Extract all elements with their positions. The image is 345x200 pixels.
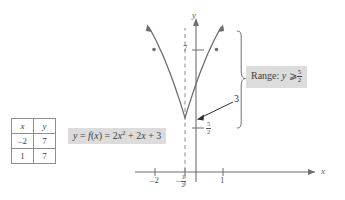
eq-y: y bbox=[73, 130, 77, 141]
table-header-x: x bbox=[12, 119, 34, 134]
x-tick-label-minus-one-half: –12 bbox=[176, 174, 186, 189]
x-tick-label-minus2: –2 bbox=[150, 175, 159, 185]
table-cell-y-1: 7 bbox=[34, 134, 56, 149]
y-tick-fraction-denominator: 2 bbox=[206, 129, 211, 136]
range-brace bbox=[237, 31, 246, 128]
table-cell-y-2: 7 bbox=[34, 149, 56, 164]
y-intercept-annotation: 3 bbox=[234, 93, 239, 104]
y-axis-label: y bbox=[192, 10, 196, 20]
parabola-graph bbox=[0, 0, 345, 200]
eq-equals-2: = bbox=[105, 130, 111, 141]
y-tick-fraction: 52 bbox=[206, 121, 211, 136]
eq-exponent: 2 bbox=[122, 129, 126, 137]
range-prefix: Range: bbox=[251, 70, 279, 81]
table-cell-x-2: 1 bbox=[12, 149, 34, 164]
point-marker-minus2-7 bbox=[152, 48, 156, 52]
range-variable: y bbox=[282, 70, 286, 81]
x-axis bbox=[135, 169, 315, 175]
eq-plus-1: + bbox=[128, 130, 134, 141]
eq-x-linear: x bbox=[141, 130, 145, 141]
eq-equals-1: = bbox=[80, 130, 86, 141]
x-tick-label-1: 1 bbox=[220, 175, 225, 185]
table-row: 1 7 bbox=[12, 149, 56, 164]
y-intercept-leader-line bbox=[197, 102, 233, 121]
value-table: x y –2 7 1 7 bbox=[11, 118, 56, 164]
y-tick-label-five-halves: 52 bbox=[206, 121, 211, 136]
range-fraction-denominator: 2 bbox=[297, 77, 303, 84]
y-tick-label-7: 7 bbox=[183, 43, 188, 53]
eq-paren-close: ) bbox=[99, 130, 102, 141]
eq-constant: 3 bbox=[156, 130, 161, 141]
figure-container: x y –2 7 1 7 y = f(x) = 2x2 + 2x + 3 Ran… bbox=[0, 0, 345, 200]
table-header-y: y bbox=[34, 119, 56, 134]
x-tick-fraction-denominator: 2 bbox=[181, 182, 186, 189]
curve-arrow-left bbox=[146, 24, 152, 32]
y-axis bbox=[193, 18, 199, 182]
eq-plus-2: + bbox=[148, 130, 154, 141]
table-header-row: x y bbox=[12, 119, 56, 134]
range-label: Range: y ⩾52 bbox=[246, 66, 307, 88]
equation-label: y = f(x) = 2x2 + 2x + 3 bbox=[68, 128, 166, 144]
table-row: –2 7 bbox=[12, 134, 56, 149]
x-tick-fraction: 12 bbox=[181, 174, 186, 189]
table-cell-x-1: –2 bbox=[12, 134, 34, 149]
range-fraction: 52 bbox=[297, 69, 303, 85]
curve-arrow-right bbox=[218, 24, 224, 32]
x-axis-label: x bbox=[321, 166, 325, 176]
range-relation-symbol: ⩾ bbox=[289, 70, 297, 81]
point-marker-1-7 bbox=[215, 48, 219, 52]
